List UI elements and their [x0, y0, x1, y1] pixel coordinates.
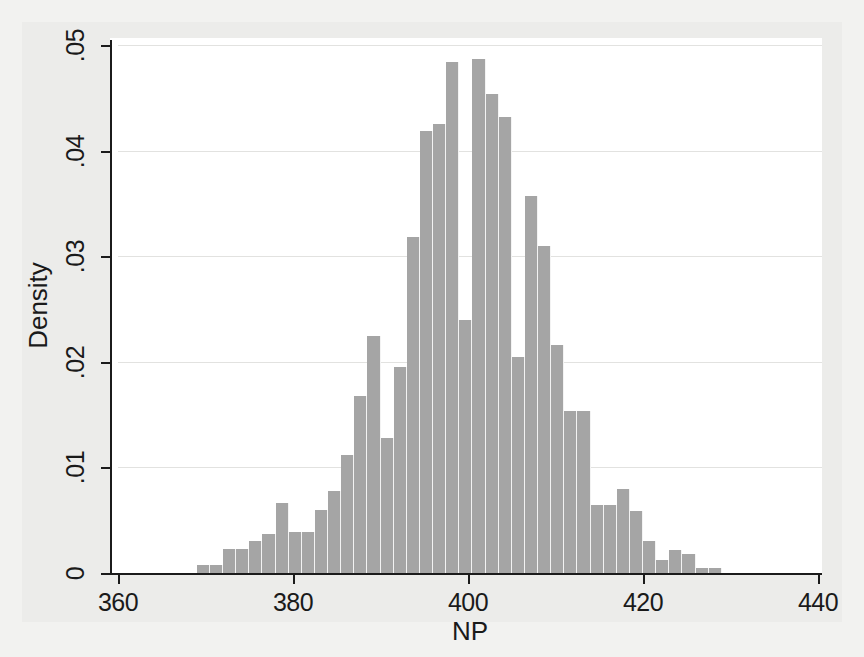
x-tick-label: 380	[253, 588, 333, 617]
y-tick-label: .04	[61, 128, 90, 174]
histogram-bar	[512, 357, 525, 573]
histogram-bar	[276, 503, 289, 573]
histogram-bar	[630, 511, 643, 573]
histogram-bar	[486, 94, 499, 573]
y-tick	[101, 151, 110, 153]
histogram-bar	[604, 505, 617, 573]
x-tick-label: 360	[78, 588, 158, 617]
histogram-bar	[223, 549, 236, 573]
gridline	[118, 256, 822, 257]
histogram-bar	[669, 550, 682, 573]
figure-histogram: 360380400420440 0.01.02.03.04.05 NP Dens…	[0, 0, 864, 657]
histogram-bar	[525, 196, 538, 573]
gridline	[118, 151, 822, 152]
histogram-bar	[394, 367, 407, 573]
histogram-bar	[354, 396, 367, 573]
y-tick-label: .05	[61, 23, 90, 69]
histogram-bar	[551, 345, 564, 573]
histogram-bar	[302, 532, 315, 573]
histogram-bar	[472, 59, 485, 573]
y-tick	[101, 45, 110, 47]
x-tick	[643, 575, 645, 584]
histogram-bar	[328, 491, 341, 573]
histogram-bar	[577, 411, 590, 573]
histogram-bar	[617, 489, 630, 573]
histogram-bar	[236, 549, 249, 573]
y-tick-label: .01	[61, 445, 90, 491]
y-tick	[101, 573, 110, 575]
y-tick	[101, 256, 110, 258]
x-tick-label: 440	[778, 588, 858, 617]
x-axis-line	[110, 573, 822, 575]
y-tick-label: 0	[61, 551, 90, 597]
histogram-bar	[197, 565, 210, 573]
histogram-bar	[407, 237, 420, 573]
y-tick	[101, 362, 110, 364]
histogram-bar	[591, 505, 604, 573]
y-tick-label: .03	[61, 234, 90, 280]
y-tick-label: .02	[61, 339, 90, 385]
x-tick-label: 420	[603, 588, 683, 617]
histogram-bar	[643, 541, 656, 573]
x-tick	[293, 575, 295, 584]
histogram-bar	[656, 560, 669, 573]
histogram-bar	[538, 246, 551, 573]
x-axis-label: NP	[118, 616, 822, 647]
x-tick	[818, 575, 820, 584]
y-tick	[101, 467, 110, 469]
x-tick-label: 400	[428, 588, 508, 617]
histogram-bar	[210, 565, 223, 573]
histogram-bar	[315, 510, 328, 573]
histogram-bar	[381, 438, 394, 573]
plot-area: 360380400420440 0.01.02.03.04.05 NP Dens…	[0, 0, 864, 657]
histogram-bar	[367, 336, 380, 573]
histogram-bar	[459, 320, 472, 573]
histogram-bar	[262, 534, 275, 573]
histogram-bar	[564, 411, 577, 573]
y-axis-label: Density	[23, 206, 54, 406]
y-axis-line	[110, 40, 112, 575]
histogram-bar	[499, 117, 512, 573]
histogram-bar	[249, 541, 262, 573]
histogram-bar	[289, 532, 302, 573]
histogram-bar	[420, 131, 433, 573]
histogram-bar	[433, 124, 446, 573]
x-tick	[468, 575, 470, 584]
histogram-bar	[682, 554, 695, 573]
histogram-bar	[341, 455, 354, 573]
histogram-bar	[446, 62, 459, 573]
x-tick	[118, 575, 120, 584]
gridline	[118, 45, 822, 46]
